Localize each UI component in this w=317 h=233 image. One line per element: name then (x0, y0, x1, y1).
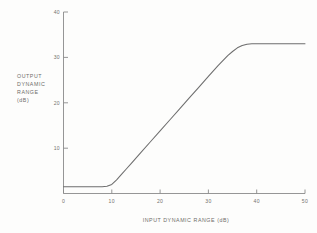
y-tick-label-40: 40 (54, 9, 60, 15)
x-tick-label-10: 10 (109, 198, 115, 204)
y-tick-label-10: 10 (54, 145, 60, 151)
x-tick-label-40: 40 (254, 198, 260, 204)
y-axis-title-line-4: (dB) (17, 97, 29, 103)
y-tick-label-30: 30 (54, 54, 60, 60)
x-axis-title: INPUT DYNAMIC RANGE (dB) (143, 217, 230, 223)
dynamic-range-chart: 40 30 20 10 0 10 20 30 40 50 OUTPUT DYNA… (0, 0, 317, 233)
y-axis-title-line-3: RANGE (17, 89, 39, 95)
x-tick-label-50: 50 (302, 198, 308, 204)
x-tick-label-30: 30 (205, 198, 211, 204)
x-tick-label-0: 0 (62, 198, 65, 204)
y-axis-title-line-1: OUTPUT (17, 73, 42, 79)
x-tick-label-20: 20 (157, 198, 163, 204)
y-tick-label-20: 20 (54, 100, 60, 106)
y-axis-title-line-2: DYNAMIC (17, 81, 45, 87)
